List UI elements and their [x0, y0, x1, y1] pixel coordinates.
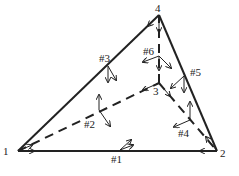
- edge-3: [18, 15, 159, 151]
- edge-label-1: #1: [111, 154, 122, 165]
- tetrahedron-diagram: 1 2 3 4 #1 #2 #3 #4 #5 #6: [0, 0, 239, 176]
- edge-label-2: #2: [84, 119, 95, 130]
- vertex-label-4: 4: [155, 3, 161, 14]
- vertex-label-3: 3: [153, 86, 159, 97]
- edge-label-4: #4: [178, 128, 189, 139]
- diagram-canvas: [0, 0, 239, 176]
- edge-label-3: #3: [99, 53, 110, 64]
- edge-label-6: #6: [143, 46, 154, 57]
- vertex-label-1: 1: [3, 146, 9, 157]
- edge-2: [18, 83, 159, 151]
- edge-label-5: #5: [190, 67, 201, 78]
- vertex-label-2: 2: [220, 148, 226, 159]
